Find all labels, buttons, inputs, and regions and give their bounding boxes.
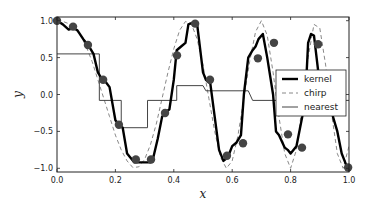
sample-marker xyxy=(147,155,155,163)
sample-marker xyxy=(239,139,247,147)
x-tick-label: 1.0 xyxy=(343,176,356,185)
y-axis-label: y xyxy=(11,91,25,99)
y-tick-label: −1.0 xyxy=(34,164,53,173)
sample-marker xyxy=(344,163,352,171)
legend-label-nearest: nearest xyxy=(304,102,338,112)
sample-marker xyxy=(223,152,231,160)
legend-label-chirp: chirp xyxy=(304,88,327,98)
x-axis-label: x xyxy=(200,187,207,201)
y-tick-label: −0.5 xyxy=(34,127,53,136)
chart: 0.00.20.40.60.81.0−1.0−0.50.00.51.0 x y … xyxy=(0,0,371,206)
sample-marker xyxy=(99,76,107,84)
sample-marker xyxy=(69,22,77,30)
x-tick-label: 0.0 xyxy=(51,176,64,185)
x-tick-label: 0.8 xyxy=(284,176,297,185)
sample-marker xyxy=(298,143,306,151)
x-tick-label: 0.4 xyxy=(167,176,180,185)
legend-label-kernel: kernel xyxy=(304,74,332,84)
sample-marker xyxy=(115,121,123,129)
sample-marker xyxy=(191,19,199,27)
sample-marker xyxy=(132,155,140,163)
sample-marker xyxy=(84,41,92,49)
y-tick-label: 1.0 xyxy=(40,17,53,26)
y-tick-label: 0.0 xyxy=(40,91,53,100)
sample-marker xyxy=(284,130,292,138)
sample-marker xyxy=(270,39,278,47)
sample-marker xyxy=(161,109,169,117)
sample-marker xyxy=(254,54,262,62)
legend: kernelchirpnearest xyxy=(276,70,346,116)
sample-marker xyxy=(206,76,214,84)
x-tick-label: 0.2 xyxy=(109,176,122,185)
y-tick-label: 0.5 xyxy=(40,54,53,63)
sample-marker xyxy=(314,40,322,48)
x-tick-label: 0.6 xyxy=(226,176,239,185)
sample-marker xyxy=(173,51,181,59)
